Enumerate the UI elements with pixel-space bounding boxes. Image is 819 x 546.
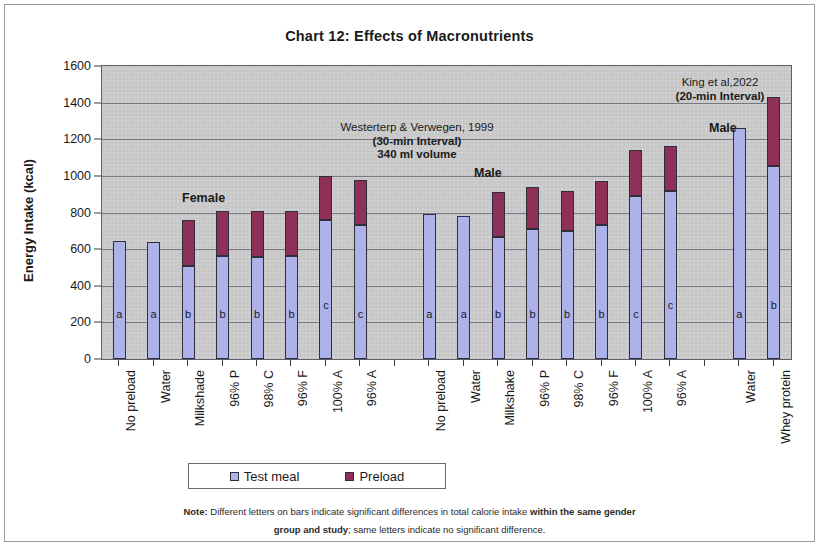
bar-segment-test-meal [595, 225, 608, 359]
bar-10: a [457, 216, 470, 359]
x-axis-tickmark [773, 360, 774, 366]
x-axis-tickmark [222, 360, 223, 366]
bar-segment-preload [595, 181, 608, 225]
bar-segment-preload [182, 220, 195, 266]
x-axis-tickmark [359, 360, 360, 366]
bar-segment-test-meal [492, 237, 505, 359]
annotation-westerterp-line2: (30-min Interval) [317, 135, 517, 149]
x-axis-tickmark [153, 360, 154, 366]
bar-segment-preload [251, 211, 264, 258]
bar-significance-letter: b [598, 308, 604, 320]
y-axis-title: Energy Intake (kcal) [21, 101, 36, 341]
bar-significance-letter: c [323, 299, 329, 311]
gridline-800 [102, 213, 791, 214]
gridline-600 [102, 249, 791, 250]
bar-segment-test-meal [664, 191, 677, 359]
bar-segment-preload [319, 176, 332, 220]
x-axis-tickmark [256, 360, 257, 366]
bar-significance-letter: b [495, 308, 501, 320]
bar-15: c [629, 150, 642, 359]
bar-significance-letter: a [426, 308, 432, 320]
bar-0: a [113, 241, 126, 359]
bar-segment-preload [629, 150, 642, 196]
x-axis-label-12: 96% P [538, 370, 552, 407]
legend-item-preload: Preload [345, 469, 404, 484]
x-axis-label-13: 98% C [572, 370, 586, 408]
x-axis-tickmark [601, 360, 602, 366]
x-axis-tickmark [428, 360, 429, 366]
legend-label-preload: Preload [359, 469, 404, 484]
annotation-westerterp: Westerterp & Verwegen, 1999 (30-min Inte… [317, 121, 517, 162]
y-axis-tick-200: 200 [70, 315, 91, 329]
y-axis-tickmark-400 [94, 285, 101, 286]
y-axis-tick-1200: 1200 [63, 132, 91, 146]
y-axis: Energy Intake (kcal) 0200400600800100012… [0, 65, 101, 361]
bar-11: b [492, 192, 505, 359]
bar-segment-test-meal [526, 229, 539, 359]
annotation-westerterp-line3: 340 ml volume [317, 148, 517, 162]
x-axis-tickmark [704, 360, 705, 366]
y-axis-tickmark-600 [94, 249, 101, 250]
x-axis: No preloadWaterMilkshade96% P98% C96% F1… [101, 360, 792, 468]
bar-segment-preload [561, 191, 574, 231]
bar-significance-letter: a [461, 308, 467, 320]
chart-note-text1: Different letters on bars indicate signi… [208, 506, 530, 517]
annotation-westerterp-line1: Westerterp & Verwegen, 1999 [317, 121, 517, 135]
x-axis-label-19: Whey protein [779, 370, 793, 444]
y-axis-tickmark-200 [94, 322, 101, 323]
bar-significance-letter: b [185, 308, 191, 320]
x-axis-tickmark [463, 360, 464, 366]
bar-significance-letter: a [116, 308, 122, 320]
x-axis-tickmark [497, 360, 498, 366]
bar-segment-preload [354, 180, 367, 225]
gridline-400 [102, 286, 791, 287]
group-label-male-king: Male [709, 121, 737, 135]
bar-significance-letter: b [530, 308, 536, 320]
bar-segment-preload [492, 192, 505, 237]
bar-16: c [664, 146, 677, 359]
x-axis-tickmark [290, 360, 291, 366]
x-axis-tickmark [532, 360, 533, 366]
legend-label-test-meal: Test meal [244, 469, 300, 484]
bar-7: c [354, 180, 367, 359]
annotation-king: King et al,2022 (20-min Interval) [630, 76, 810, 103]
bar-1: a [147, 242, 160, 359]
legend: Test meal Preload [188, 463, 446, 489]
bar-segment-preload [526, 187, 539, 229]
y-axis-tickmark-0 [94, 359, 101, 360]
annotation-king-line2: (20-min Interval) [630, 90, 810, 104]
x-axis-tickmark [566, 360, 567, 366]
bar-19: b [767, 97, 780, 359]
bar-segment-test-meal [733, 128, 746, 359]
x-axis-tickmark [187, 360, 188, 366]
group-label-female: Female [182, 191, 225, 205]
bar-significance-letter: c [668, 299, 674, 311]
y-axis-tickmark-800 [94, 212, 101, 213]
y-axis-tick-0: 0 [84, 352, 91, 366]
x-axis-label-2: Milkshade [193, 370, 207, 426]
bar-segment-test-meal [767, 166, 780, 359]
bar-segment-test-meal [423, 214, 436, 359]
x-axis-label-4: 98% C [262, 370, 276, 408]
bar-9: a [423, 214, 436, 359]
y-axis-tick-800: 800 [70, 206, 91, 220]
chart-note-line1: Note: Different letters on bars indicate… [0, 503, 819, 521]
x-axis-tickmark [738, 360, 739, 366]
annotation-king-line1: King et al,2022 [630, 76, 810, 90]
x-axis-label-15: 100% A [641, 370, 655, 413]
bar-segment-test-meal [561, 231, 574, 359]
bar-significance-letter: b [771, 299, 777, 311]
bar-segment-preload [664, 146, 677, 191]
chart-note-text2: ; same letters indicate no significant d… [348, 524, 545, 535]
bar-6: c [319, 176, 332, 359]
bar-3: b [216, 211, 229, 359]
chart-note-bold1: within the same gender [530, 506, 636, 517]
bar-segment-test-meal [113, 241, 126, 359]
bar-13: b [561, 191, 574, 359]
bar-segment-test-meal [457, 216, 470, 359]
chart-note: Note: Different letters on bars indicate… [0, 503, 819, 539]
plot-area: aabbbbccaabbbbccab Westerterp & Verwegen… [101, 65, 792, 360]
y-axis-tick-1400: 1400 [63, 96, 91, 110]
x-axis-label-16: 96% A [675, 370, 689, 406]
bar-segment-preload [285, 211, 298, 256]
